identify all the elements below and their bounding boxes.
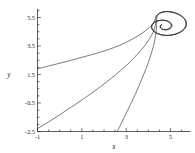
- trajectory-curves: [38, 12, 187, 132]
- y-tick-label: -0.5: [25, 99, 35, 106]
- x-tick-label: -1: [35, 133, 40, 140]
- y-axis-ticks: [38, 10, 41, 131]
- y-tick-label: 5.5: [27, 14, 35, 21]
- chart-figure: -1135 -2.5-0.51.53.55.5 x y: [0, 0, 195, 153]
- trajectory-path: [38, 12, 187, 129]
- x-tick-label: 1: [80, 133, 83, 140]
- y-tick-label: -2.5: [25, 128, 35, 135]
- y-tick-label: 3.5: [27, 42, 35, 49]
- axes-group: [38, 9, 191, 132]
- trajectory-path: [117, 12, 185, 132]
- x-axis-tick-labels: -1135: [35, 133, 172, 140]
- y-axis-title: y: [6, 70, 11, 79]
- phase-portrait-plot: -1135 -2.5-0.51.53.55.5 x y: [0, 0, 195, 153]
- x-axis-ticks: [38, 128, 182, 131]
- x-axis-title: x: [111, 142, 116, 151]
- x-tick-label: 3: [125, 133, 128, 140]
- y-tick-label: 1.5: [27, 71, 35, 78]
- x-tick-label: 5: [169, 133, 172, 140]
- y-axis-tick-labels: -2.5-0.51.53.55.5: [25, 14, 35, 135]
